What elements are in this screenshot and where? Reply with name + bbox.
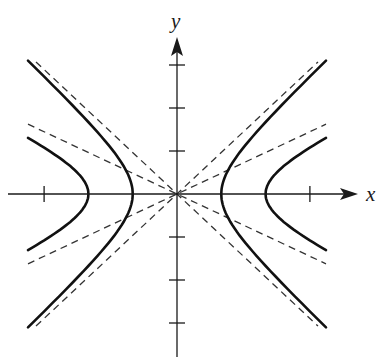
coordinate-axes <box>8 48 350 357</box>
hyperbola-diagram: x y <box>0 0 381 357</box>
y-axis-label: y <box>169 9 181 33</box>
x-axis-label: x <box>365 182 376 206</box>
